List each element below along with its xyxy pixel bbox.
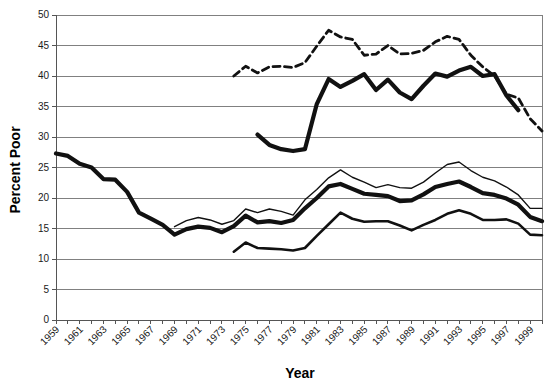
y-tick-label-0: 0 <box>43 314 49 325</box>
y-tick-label-50: 50 <box>38 9 50 20</box>
y-tick-label-35: 35 <box>38 101 50 112</box>
y-tick-label-5: 5 <box>43 284 49 295</box>
y-tick-label-20: 20 <box>38 192 50 203</box>
chart-page: 05101520253035404550 1959196119631965196… <box>0 0 556 383</box>
y-tick-label-40: 40 <box>38 70 50 81</box>
y-tick-label-45: 45 <box>38 40 50 51</box>
x-axis-title: Year <box>285 365 315 381</box>
y-tick-label-25: 25 <box>38 162 50 173</box>
line-chart: 05101520253035404550 1959196119631965196… <box>0 0 556 383</box>
y-tick-label-15: 15 <box>38 223 50 234</box>
y-tick-label-10: 10 <box>38 253 50 264</box>
y-tick-label-30: 30 <box>38 131 50 142</box>
y-axis-title: Percent Poor <box>7 126 23 214</box>
